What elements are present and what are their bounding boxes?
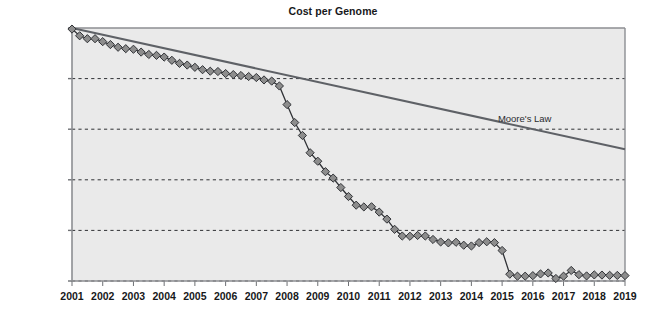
x-axis-tick-label: 2018 [583, 290, 606, 302]
x-axis-tick-label: 2014 [460, 290, 483, 302]
x-axis-tick-label: 2004 [152, 290, 175, 302]
x-axis-tick-label: 2007 [245, 290, 268, 302]
chart-container: Cost per Genome $100M$10M$1M$100K$10K$1K… [0, 0, 666, 317]
x-axis-tick-label: 2012 [398, 290, 421, 302]
x-axis-tick-label: 2019 [613, 290, 636, 302]
x-axis-tick-label: 2008 [275, 290, 298, 302]
x-axis-tick-label: 2003 [122, 290, 145, 302]
x-axis-tick-label: 2002 [91, 290, 114, 302]
x-axis-tick-label: 2016 [521, 290, 544, 302]
x-axis-tick-label: 2015 [490, 290, 513, 302]
x-axis-tick-label: 2017 [552, 290, 575, 302]
x-axis-tick-label: 2009 [306, 290, 329, 302]
x-axis-tick-label: 2006 [214, 290, 237, 302]
x-axis-tick-label: 2013 [429, 290, 452, 302]
x-axis-tick-label: 2011 [368, 290, 391, 302]
x-axis-tick-label: 2001 [60, 290, 83, 302]
moores-law-annotation: Moore's Law [498, 113, 552, 124]
x-axis-tick-label: 2010 [337, 290, 360, 302]
x-axis-tick-labels: 2001200220032004200520062007200820092010… [0, 0, 666, 317]
x-axis-tick-label: 2005 [183, 290, 206, 302]
